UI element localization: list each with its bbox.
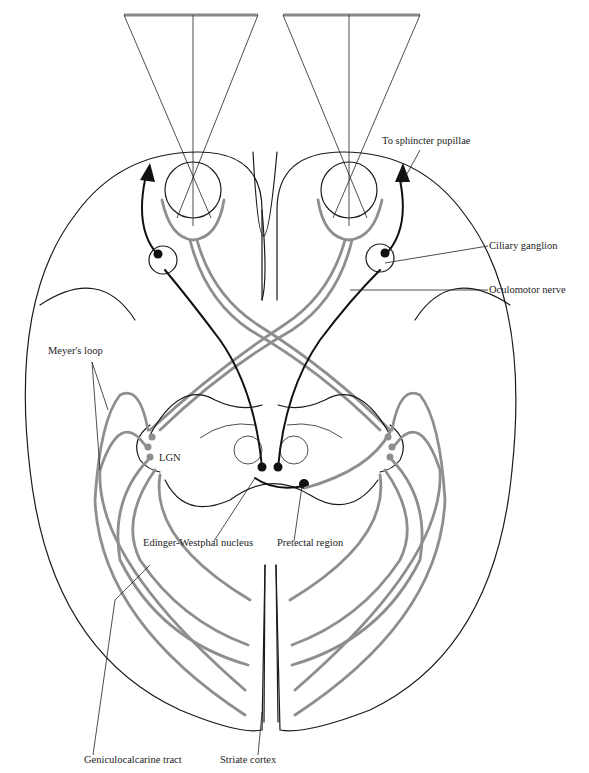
- label-meyers-loop: Meyer's loop: [48, 346, 103, 357]
- label-ciliary-ganglion: Ciliary ganglion: [489, 241, 558, 252]
- leader-lines: [92, 150, 488, 755]
- label-geniculocalcarine-tract: Geniculocalcarine tract: [84, 755, 182, 766]
- label-pretectal-region: Pretectal region: [277, 538, 343, 549]
- lgn-right: [380, 425, 403, 472]
- lgn-left: [137, 425, 160, 472]
- geniculocalcarine-right: [290, 393, 445, 715]
- head-outline: [25, 152, 516, 731]
- label-lgn: LGN: [159, 453, 181, 464]
- eye-right: [318, 162, 382, 240]
- geniculocalcarine-left: [95, 393, 250, 715]
- visual-field-left: [124, 15, 258, 226]
- label-striate-cortex: Striate cortex: [220, 755, 276, 766]
- label-oculomotor-nerve: Oculomotor nerve: [489, 285, 566, 296]
- diagram-canvas: [0, 0, 589, 773]
- label-edinger-westphal: Edinger-Westphal nucleus: [143, 538, 253, 549]
- pupillary-reflex-diagram: To sphincter pupillae Ciliary ganglion O…: [0, 0, 589, 773]
- visual-field-right: [283, 15, 420, 226]
- midbrain: [150, 395, 390, 507]
- temporal-arc-left: [40, 288, 135, 320]
- optic-nerves: [150, 240, 390, 430]
- label-sphincter-pupillae: To sphincter pupillae: [382, 136, 471, 147]
